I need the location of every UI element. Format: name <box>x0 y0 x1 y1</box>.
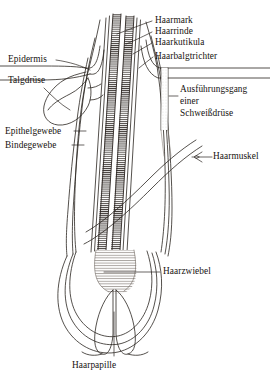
leader-talgdruese <box>44 88 70 110</box>
leader-haarmuskel <box>192 152 212 162</box>
hair-bulb <box>58 248 162 353</box>
label-haarmark: Haarmark <box>155 15 193 26</box>
label-haarzwiebel: Haarzwiebel <box>163 266 211 277</box>
label-epidermis: Epidermis <box>8 54 47 65</box>
sweat-gland-duct <box>161 68 171 156</box>
label-bindegewebe: Bindegewebe <box>5 140 56 151</box>
leader-epidermis <box>56 60 90 70</box>
label-haarbalgtrichter: Haarbalgtrichter <box>155 51 217 62</box>
label-haarkutikula: Haarkutikula <box>155 37 205 48</box>
label-haarmuskel: Haarmuskel <box>213 151 259 162</box>
label-ausfuehrungsgang-line3: Schweißdrüse <box>180 108 233 119</box>
label-talgdruese: Talgdrüse <box>8 75 45 86</box>
label-haarpapille: Haarpapille <box>72 360 116 371</box>
label-ausfuehrungsgang-line1: Ausführungsgang <box>180 84 247 95</box>
label-ausfuehrungsgang-line2: einer <box>180 96 199 107</box>
leader-haarmark <box>117 21 152 34</box>
leader-haarkutikula <box>133 43 152 54</box>
label-epithelgewebe: Epithelgewebe <box>5 126 61 137</box>
label-haarrinde: Haarrinde <box>155 26 193 37</box>
